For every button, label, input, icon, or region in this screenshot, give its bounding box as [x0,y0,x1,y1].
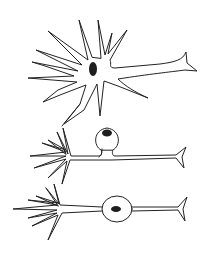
multipolar-nucleus [89,62,97,76]
neuron-types-diagram [0,0,205,253]
multipolar-neuron [28,20,197,126]
bipolar-nucleus [111,206,121,212]
unipolar-nucleus [102,130,112,137]
bipolar-process-outline [13,184,187,240]
bipolar-neuron [13,184,187,240]
unipolar-neuron [30,128,186,184]
multipolar-cell-body-outline [28,20,197,124]
